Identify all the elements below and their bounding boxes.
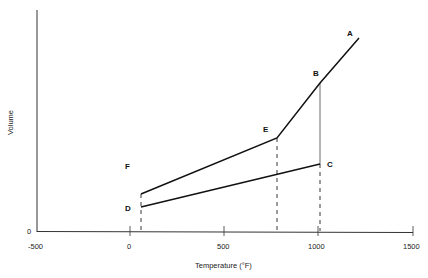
x-axis — [37, 232, 413, 233]
point-label-f: F — [125, 162, 130, 171]
point-label-c: C — [327, 160, 333, 169]
reference-lines — [141, 138, 320, 231]
x-tick-label-0: 0 — [127, 242, 131, 251]
point-label-d: D — [125, 204, 131, 213]
volume-temperature-chart: 0 -500 0 500 1000 1500 Temperature (°F) … — [0, 0, 428, 278]
series-lower-dc — [141, 164, 320, 207]
x-axis-title: Temperature (°F) — [195, 261, 252, 270]
point-label-e: E — [263, 125, 269, 134]
x-tick-label-minus500: -500 — [28, 242, 43, 251]
x-tick-label-500: 500 — [217, 242, 230, 251]
x-ticks — [130, 226, 413, 236]
x-tick-label-1500: 1500 — [403, 242, 420, 251]
series-upper-fEBA — [141, 38, 359, 194]
point-label-b: B — [313, 69, 319, 78]
point-label-a: A — [347, 29, 353, 38]
y-tick-label-0: 0 — [27, 227, 31, 236]
x-tick-label-1000: 1000 — [308, 242, 325, 251]
y-axis-title: Volume — [6, 110, 15, 135]
